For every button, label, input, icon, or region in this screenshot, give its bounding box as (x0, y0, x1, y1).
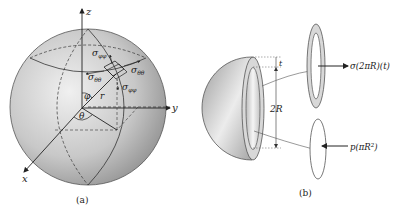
leader-to-disk (254, 131, 313, 149)
diameter-label: 2R (269, 104, 283, 114)
z-axis-label: z (85, 6, 92, 17)
pressure-disk (310, 119, 326, 179)
panel-a-caption: (a) (76, 195, 88, 205)
phi-label: φ (84, 91, 91, 101)
panel-b-hemisphere: t 2R σ(2πR)(t) p(πR2) (b) (202, 24, 390, 198)
theta-label: θ (79, 111, 85, 121)
x-axis-label: x (22, 173, 28, 184)
stress-diagram: z y x r φ θ σφφ σθθ (0, 0, 397, 209)
hemisphere-rim-inner (246, 68, 260, 150)
thickness-label: t (279, 59, 283, 68)
pressure-force-label: p(πR2) (350, 142, 378, 152)
wall-force-label: σ(2πR)(t) (350, 61, 390, 71)
radius-label: r (100, 91, 105, 101)
leader-to-ring (262, 71, 310, 86)
y-axis-label: y (171, 102, 178, 113)
panel-a-sphere: z y x r φ θ σφφ σθθ (10, 6, 178, 205)
panel-b-caption: (b) (299, 188, 312, 198)
